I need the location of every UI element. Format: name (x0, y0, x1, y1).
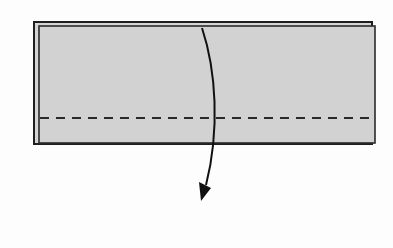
origami-fold-diagram (0, 0, 393, 248)
